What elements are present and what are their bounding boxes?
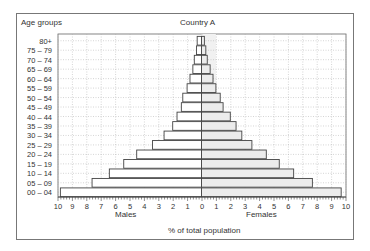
female-bar	[202, 74, 214, 83]
age-group-label: 15 – 19	[27, 160, 52, 169]
x-tick-label: 4	[142, 202, 146, 211]
age-group-label: 35 – 39	[27, 122, 52, 131]
female-bar	[202, 93, 221, 102]
female-bar	[202, 103, 224, 112]
x-tick-label: 0	[200, 202, 204, 211]
female-bar	[202, 188, 342, 197]
x-tick-label: 8	[85, 202, 89, 211]
female-bar	[202, 122, 237, 131]
x-tick-label: 2	[229, 202, 233, 211]
x-tick-label: 6	[114, 202, 118, 211]
x-tick-label: 9	[330, 202, 334, 211]
female-bar	[202, 112, 231, 121]
x-tick-label: 5	[128, 202, 132, 211]
age-group-label: 65 – 69	[27, 65, 52, 74]
age-group-label: 20 – 24	[27, 150, 52, 159]
x-tick-label: 3	[243, 202, 247, 211]
population-pyramid-plot: 80+75 – 7970 – 7465 – 6960 – 6455 – 5950…	[0, 0, 370, 251]
female-bar	[202, 150, 267, 159]
male-bar	[173, 122, 202, 131]
male-bar	[124, 159, 202, 168]
male-bar	[187, 84, 201, 93]
female-bar	[202, 178, 313, 187]
age-group-label: 05 – 09	[27, 179, 52, 188]
x-tick-label: 10	[342, 202, 350, 211]
male-bar	[164, 131, 201, 140]
x-tick-label: 7	[99, 202, 103, 211]
x-tick-label: 1	[214, 202, 218, 211]
age-group-label: 40 – 44	[27, 113, 52, 122]
age-group-label: 30 – 34	[27, 131, 52, 140]
female-bar	[202, 131, 242, 140]
x-tick-label: 5	[272, 202, 276, 211]
male-bar	[92, 178, 201, 187]
x-tick-label: 10	[54, 202, 62, 211]
female-bar	[202, 55, 208, 64]
x-tick-label: 2	[171, 202, 175, 211]
x-tick-label: 4	[258, 202, 262, 211]
female-bar	[202, 169, 294, 178]
male-bar	[60, 188, 201, 197]
female-bar	[202, 141, 252, 150]
age-group-label: 60 – 64	[27, 75, 52, 84]
male-bar	[194, 55, 201, 64]
male-bar	[190, 74, 202, 83]
male-bar	[177, 112, 201, 121]
age-group-label: 75 – 79	[27, 46, 52, 55]
x-tick-label: 9	[70, 202, 74, 211]
male-bar	[197, 36, 201, 45]
x-tick-label: 1	[186, 202, 190, 211]
x-tick-label: 6	[286, 202, 290, 211]
male-bar	[196, 46, 201, 55]
age-group-label: 00 – 04	[27, 188, 52, 197]
male-bar	[181, 103, 201, 112]
female-bar	[202, 46, 206, 55]
x-tick-label: 7	[301, 202, 305, 211]
age-group-label: 80+	[39, 37, 52, 46]
male-bar	[137, 150, 202, 159]
female-bar	[202, 84, 216, 93]
female-bar	[202, 65, 211, 74]
age-group-label: 70 – 74	[27, 56, 52, 65]
age-group-label: 45 – 49	[27, 103, 52, 112]
male-bar	[183, 93, 202, 102]
male-bar	[193, 65, 202, 74]
male-bar	[109, 169, 201, 178]
age-group-label: 10 – 14	[27, 169, 52, 178]
x-tick-label: 3	[157, 202, 161, 211]
female-bar	[202, 36, 205, 45]
age-group-label: 50 – 54	[27, 94, 52, 103]
age-group-label: 55 – 59	[27, 84, 52, 93]
female-bar	[202, 159, 280, 168]
age-group-label: 25 – 29	[27, 141, 52, 150]
x-tick-label: 8	[315, 202, 319, 211]
male-bar	[153, 141, 202, 150]
